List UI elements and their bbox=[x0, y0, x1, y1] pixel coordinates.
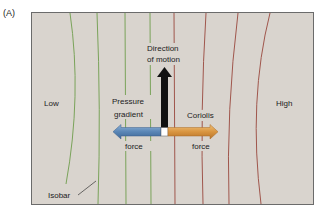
low-pressure-label: Low bbox=[44, 99, 59, 109]
motion-label-line1: Direction bbox=[147, 44, 179, 54]
high-pressure-label: High bbox=[276, 99, 292, 109]
origin-square bbox=[161, 128, 168, 137]
isobar-label: Isobar bbox=[48, 191, 70, 201]
pgf-label-line1: Pressure bbox=[112, 97, 144, 107]
pgf-label-line2: gradient bbox=[114, 110, 143, 120]
diagram-frame bbox=[32, 13, 314, 205]
coriolis-label-line1: Coriolis bbox=[187, 111, 214, 121]
pgf-label-line3: force bbox=[125, 142, 143, 152]
coriolis-label-line2: force bbox=[192, 142, 210, 152]
motion-label-line2: of motion bbox=[147, 55, 180, 65]
